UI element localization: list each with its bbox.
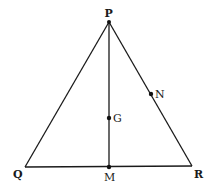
label-r: R (194, 168, 204, 181)
triangle-diagram: P Q R M G N (0, 0, 212, 190)
label-p: P (105, 7, 113, 20)
label-q: Q (13, 168, 23, 181)
segment-pq (25, 22, 109, 167)
point-g (107, 116, 111, 120)
label-n: N (155, 88, 165, 101)
point-n (149, 92, 153, 96)
point-p (107, 20, 111, 24)
point-m (107, 165, 111, 169)
label-m: M (104, 171, 115, 184)
label-g: G (113, 112, 122, 125)
